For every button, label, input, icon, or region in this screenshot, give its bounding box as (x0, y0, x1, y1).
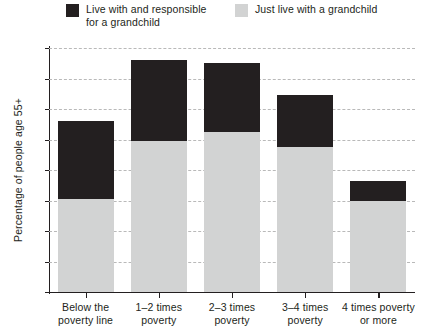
bar-segment-just-live[interactable] (350, 201, 406, 293)
bar-stack[interactable] (204, 48, 260, 292)
legend-item-responsible: Live with and responsible for a grandchi… (66, 3, 207, 28)
bar-segment-just-live[interactable] (204, 132, 260, 292)
legend-item-just-live: Just live with a grandchild (235, 3, 377, 17)
bar-segment-just-live[interactable] (277, 147, 333, 292)
y-tick-mark (45, 140, 50, 141)
bar-segment-just-live[interactable] (131, 141, 187, 292)
legend-label-just-live: Just live with a grandchild (255, 3, 377, 16)
x-tick-mark (232, 293, 233, 298)
bar-stack[interactable] (277, 48, 333, 292)
x-tick-mark (159, 293, 160, 298)
y-tick-mark (45, 292, 50, 293)
bar-stack[interactable] (350, 48, 406, 292)
x-tick-mark (86, 293, 87, 298)
y-tick-mark (45, 79, 50, 80)
y-tick-mark (45, 231, 50, 232)
x-tick-label: 3–4 times poverty (269, 301, 342, 326)
bar-segment-responsible[interactable] (350, 181, 406, 201)
legend-swatch-dark-icon (66, 4, 79, 17)
x-tick-label: 2–3 times poverty (195, 301, 268, 326)
legend-label-responsible: Live with and responsible for a grandchi… (86, 3, 207, 28)
y-axis-title: Percentage of people age 55+ (12, 48, 26, 292)
bar-segment-responsible[interactable] (58, 121, 114, 199)
bar-stack[interactable] (58, 48, 114, 292)
x-tick-mark (305, 293, 306, 298)
chart-legend: Live with and responsible for a grandchi… (0, 0, 422, 34)
bar-segment-responsible[interactable] (204, 63, 260, 132)
y-tick-mark (45, 201, 50, 202)
x-tick-label: 4 times poverty or more (342, 301, 415, 326)
x-tick-label: Below the poverty line (49, 301, 122, 326)
x-tick-mark (378, 293, 379, 298)
y-tick-mark (45, 170, 50, 171)
bar-segment-just-live[interactable] (58, 199, 114, 292)
bar-segment-responsible[interactable] (277, 95, 333, 147)
x-tick-label: 1–2 times poverty (122, 301, 195, 326)
grandparent-poverty-stacked-bar-chart: Live with and responsible for a grandchi… (0, 0, 422, 334)
legend-swatch-light-icon (235, 4, 248, 17)
y-tick-mark (45, 109, 50, 110)
bar-segment-responsible[interactable] (131, 60, 187, 141)
y-tick-mark (45, 48, 50, 49)
plot-area (49, 48, 415, 292)
bar-stack[interactable] (131, 48, 187, 292)
y-tick-mark (45, 262, 50, 263)
